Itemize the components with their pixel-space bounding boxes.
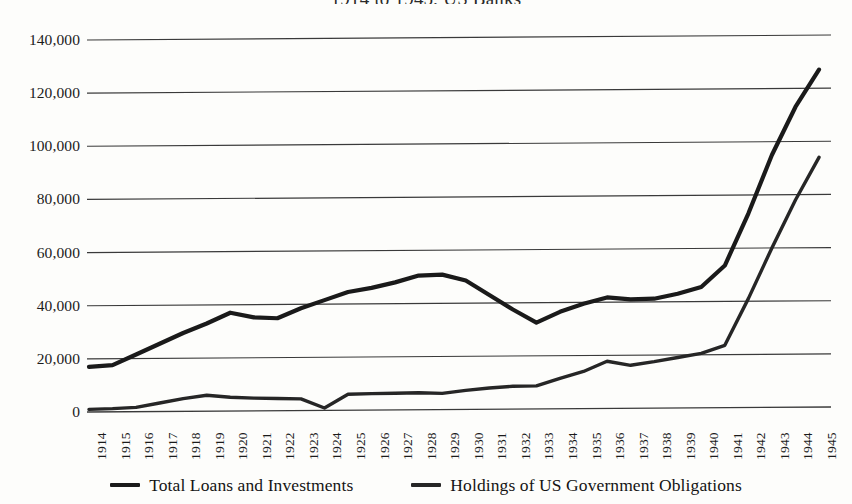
legend-item-holdings[interactable]: Holdings of US Government Obligations [411,475,741,496]
x-tick-label: 1938 [659,432,675,460]
x-tick-label: 1930 [471,432,487,460]
x-tick-label: 1921 [259,432,275,460]
y-tick-label: 60,000 [2,244,80,262]
series-line [89,70,819,367]
x-tick-label: 1943 [777,432,793,460]
chart-title: 1914 to 1945, US Banks [0,0,852,4]
x-tick-label: 1915 [118,432,134,460]
x-tick-label: 1942 [753,432,769,460]
legend-label-holdings: Holdings of US Government Obligations [450,475,741,496]
x-tick-label: 1944 [800,432,816,460]
chart-container: 1914 to 1945, US Banks 020,00040,00060,0… [0,0,852,504]
x-tick-label: 1927 [400,432,416,460]
y-tick-label: 100,000 [2,137,80,155]
x-tick-label: 1914 [94,432,110,460]
legend-label-total-loans: Total Loans and Investments [149,475,353,496]
y-tick-label: 140,000 [2,31,80,49]
y-tick-label: 80,000 [2,190,80,208]
x-tick-label: 1919 [212,432,228,460]
x-tick-label: 1945 [824,432,840,460]
x-tick-label: 1929 [447,432,463,460]
y-axis-labels: 020,00040,00060,00080,000100,000120,0001… [0,40,80,412]
y-tick-label: 20,000 [2,350,80,368]
y-tick-label: 40,000 [2,297,80,315]
x-tick-label: 1926 [377,432,393,460]
x-tick-label: 1918 [188,432,204,460]
x-tick-label: 1931 [494,432,510,460]
x-tick-label: 1920 [235,432,251,460]
y-tick-label: 0 [2,403,80,421]
x-tick-label: 1937 [636,432,652,460]
x-tick-label: 1916 [141,432,157,460]
legend-line-icon [411,483,441,487]
data-series [87,40,831,412]
x-tick-label: 1939 [683,432,699,460]
x-tick-label: 1935 [589,432,605,460]
x-tick-label: 1934 [565,432,581,460]
chart-legend: Total Loans and Investments Holdings of … [0,470,852,500]
x-tick-label: 1917 [165,432,181,460]
x-tick-label: 1925 [353,432,369,460]
x-tick-label: 1940 [706,432,722,460]
legend-item-total-loans[interactable]: Total Loans and Investments [110,475,353,496]
x-tick-label: 1941 [730,432,746,460]
x-tick-label: 1922 [282,432,298,460]
x-tick-label: 1924 [329,432,345,460]
plot-area [87,40,831,412]
x-tick-label: 1928 [424,432,440,460]
x-tick-label: 1936 [612,432,628,460]
x-tick-label: 1923 [306,432,322,460]
x-tick-label: 1932 [518,432,534,460]
legend-line-icon [110,483,140,487]
y-tick-label: 120,000 [2,84,80,102]
series-line [89,157,819,409]
x-tick-label: 1933 [541,432,557,460]
x-axis-labels: 1914191519161917191819191920192119221923… [87,414,831,466]
